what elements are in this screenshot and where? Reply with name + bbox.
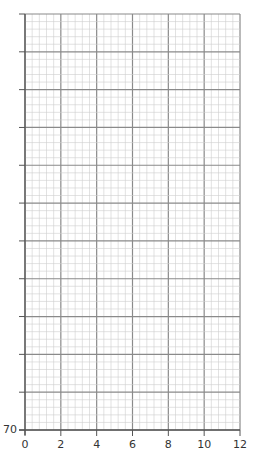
x-tick-label: 12 (233, 438, 247, 451)
x-tick-label: 8 (165, 438, 172, 451)
x-tick-label: 4 (93, 438, 100, 451)
x-tick-label: 2 (57, 438, 64, 451)
x-tick-label: 6 (129, 438, 136, 451)
y-axis-label-70: 70 (3, 423, 17, 436)
x-tick-label: 10 (197, 438, 211, 451)
x-tick-label: 0 (22, 438, 29, 451)
graph-paper-grid (0, 0, 255, 466)
